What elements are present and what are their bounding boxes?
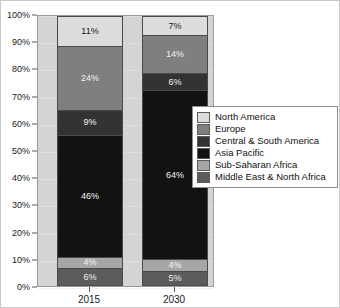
legend-item[interactable]: Europe: [197, 123, 333, 135]
bar-segment-value-label: 11%: [81, 27, 98, 36]
bar-segment[interactable]: 11%: [58, 17, 122, 47]
y-axis-tick-label: 100%: [7, 11, 30, 20]
y-axis-tick-label: 20%: [12, 228, 30, 237]
legend-color-swatch: [197, 112, 210, 123]
x-axis: 20152030: [37, 287, 214, 308]
bar-segment-value-label: 9%: [83, 118, 96, 127]
y-axis: 0%10%20%30%40%50%60%70%80%90%100%: [1, 15, 37, 287]
x-axis-tick-mark: [89, 287, 90, 292]
bar-segment-value-label: 14%: [166, 50, 184, 59]
legend-color-swatch: [197, 160, 210, 171]
bar-segment[interactable]: 6%: [58, 269, 122, 285]
legend-item-label: Central & South America: [215, 136, 319, 146]
bar-segment[interactable]: 5%: [143, 272, 207, 285]
bar-segment[interactable]: 7%: [143, 17, 207, 36]
legend-item[interactable]: Sub-Saharan Africa: [197, 159, 333, 171]
bar-segment-value-label: 24%: [81, 74, 99, 83]
x-axis-tick-mark: [174, 287, 175, 292]
bar-segment[interactable]: 4%: [58, 258, 122, 270]
bar-segment-value-label: 6%: [83, 273, 96, 282]
bar-segment-value-label: 64%: [166, 171, 184, 180]
x-axis-tick-label: 2030: [163, 294, 185, 305]
legend-item[interactable]: Central & South America: [197, 135, 333, 147]
bar-segment[interactable]: 14%: [143, 36, 207, 74]
bar-segment[interactable]: 24%: [58, 47, 122, 111]
legend-item-label: Middle East & North Africa: [215, 172, 326, 182]
y-axis-tick-label: 70%: [12, 92, 30, 101]
legend-item[interactable]: North America: [197, 111, 333, 123]
legend-item-label: North America: [215, 112, 275, 122]
y-axis-tick-label: 50%: [12, 147, 30, 156]
chart-legend: North AmericaEuropeCentral & South Ameri…: [192, 106, 338, 188]
y-axis-tick-label: 80%: [12, 65, 30, 74]
y-axis-tick-label: 0%: [17, 283, 30, 292]
bar-segment-value-label: 5%: [168, 274, 181, 283]
y-axis-tick-label: 30%: [12, 201, 30, 210]
bar-segment[interactable]: 46%: [58, 136, 122, 258]
bar-segment[interactable]: 6%: [143, 74, 207, 91]
y-axis-tick-label: 10%: [12, 255, 30, 264]
stacked-bar-2015[interactable]: 11%24%9%46%4%6%: [57, 16, 123, 286]
legend-item-label: Asia Pacific: [215, 148, 264, 158]
legend-color-swatch: [197, 172, 210, 183]
bar-segment-value-label: 6%: [168, 78, 181, 87]
legend-item-label: Europe: [215, 124, 246, 134]
bar-segment-value-label: 7%: [168, 22, 181, 31]
chart-canvas: 0%10%20%30%40%50%60%70%80%90%100% 11%24%…: [0, 0, 340, 308]
legend-color-swatch: [197, 136, 210, 147]
bar-segment-value-label: 4%: [83, 258, 96, 267]
legend-color-swatch: [197, 148, 210, 159]
plot-area: 11%24%9%46%4%6% 7%14%6%64%4%5%: [37, 15, 214, 287]
legend-color-swatch: [197, 124, 210, 135]
bar-segment[interactable]: 9%: [58, 111, 122, 136]
legend-item-label: Sub-Saharan Africa: [215, 160, 297, 170]
bar-segment-value-label: 4%: [168, 261, 181, 270]
legend-item[interactable]: Middle East & North Africa: [197, 171, 333, 183]
legend-item[interactable]: Asia Pacific: [197, 147, 333, 159]
y-axis-tick-label: 60%: [12, 119, 30, 128]
y-axis-tick-label: 90%: [12, 38, 30, 47]
x-axis-tick-label: 2015: [78, 294, 100, 305]
bar-segment[interactable]: 4%: [143, 260, 207, 272]
y-axis-tick-label: 40%: [12, 174, 30, 183]
bar-segment-value-label: 46%: [81, 192, 99, 201]
